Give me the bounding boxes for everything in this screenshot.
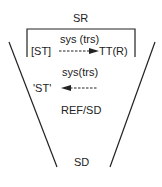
funnel-right-side: [110, 42, 155, 167]
upper-arrowhead-icon: [89, 48, 99, 54]
upper-arrow-label: sys (trs): [60, 33, 99, 45]
ref-sd-label: REF/SD: [61, 104, 101, 116]
funnel-left-side: [9, 42, 57, 167]
upper-source-label: [ST]: [31, 45, 51, 57]
lower-arrow-label: sys(trs): [62, 66, 98, 78]
upper-target-label: TT(R): [99, 45, 128, 57]
lower-arrowhead-icon: [61, 85, 71, 91]
sd-label: SD: [74, 156, 89, 168]
lower-target-label: 'ST': [33, 82, 51, 94]
sr-label: SR: [73, 12, 88, 24]
